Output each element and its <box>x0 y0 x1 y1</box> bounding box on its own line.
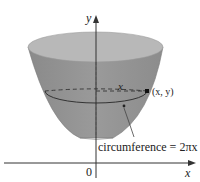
diagram-canvas: y x 0 x (x, y) circumference = 2πx <box>0 0 200 182</box>
origin-label: 0 <box>86 166 92 178</box>
x-axis-label: x <box>185 167 190 179</box>
y-axis-label: y <box>86 12 91 24</box>
y-axis-arrow-icon <box>93 15 99 23</box>
point-marker <box>145 89 149 93</box>
radius-label: x <box>118 81 123 92</box>
point-label: (x, y) <box>152 87 174 97</box>
circumference-label: circumference = 2πx <box>98 141 197 153</box>
